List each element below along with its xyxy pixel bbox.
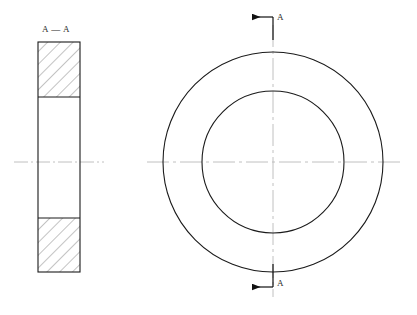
section-hatch-upper — [38, 42, 80, 97]
front-view-group — [147, 25, 400, 297]
section-view-group — [14, 42, 104, 272]
section-view-title: A — A — [42, 24, 70, 34]
drawing-canvas — [0, 0, 417, 315]
section-marker-bottom-letter: A — [277, 278, 284, 288]
section-marker-bottom-group — [252, 264, 273, 287]
section-marker-top-group — [252, 17, 273, 40]
section-marker-top-letter: A — [277, 12, 284, 22]
section-hatch-lower — [38, 218, 80, 272]
engineering-drawing-sheet: A — A A A — [0, 0, 417, 315]
